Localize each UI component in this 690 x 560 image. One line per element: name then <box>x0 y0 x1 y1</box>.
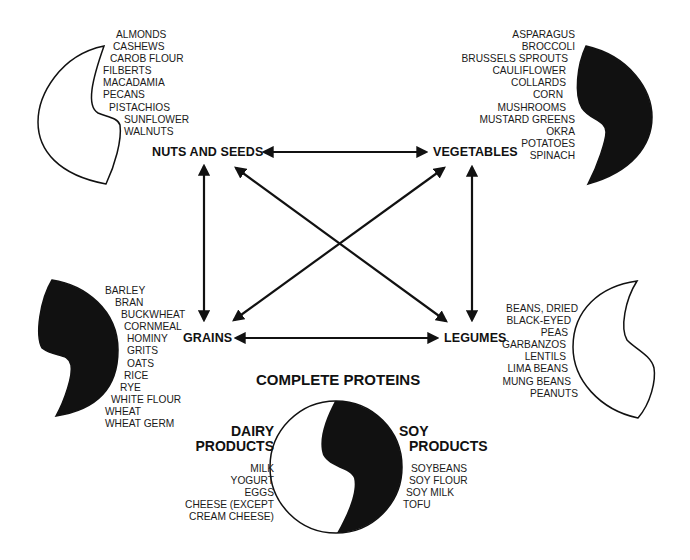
list-item: SPINACH <box>460 150 575 162</box>
soy-products-label: SOY PRODUCTS <box>399 424 488 454</box>
soy-label-line1: SOY <box>399 424 488 439</box>
list-item: MUNG BEANS <box>480 376 578 388</box>
list-item: BUCKWHEAT <box>105 309 185 321</box>
list-item: OKRA <box>460 126 575 138</box>
list-item: BARLEY <box>105 285 185 297</box>
soy-label-line2: PRODUCTS <box>399 439 488 454</box>
list-item: LENTILS <box>480 351 578 363</box>
soy-list: SOYBEANS SOY FLOUR SOY MILK TOFU <box>403 463 468 511</box>
dairy-label-line1: DAIRY <box>190 424 274 439</box>
list-item: WHEAT GERM <box>105 418 185 430</box>
list-item: RICE <box>105 370 185 382</box>
list-item: MUSHROOMS <box>460 102 575 114</box>
list-item: LIMA BEANS <box>480 363 578 375</box>
list-item: YOGURT <box>180 475 274 487</box>
list-item: CAROB FLOUR <box>103 53 189 65</box>
list-item: BEANS, DRIED <box>480 303 578 315</box>
list-item: SOY MILK <box>403 487 468 499</box>
list-item: MILK <box>180 463 274 475</box>
vegetables-list: ASPARAGUS BROCCOLI BRUSSELS SPROUTS CAUL… <box>460 29 575 162</box>
vegetables-shape-icon <box>577 46 652 184</box>
list-item: BROCCOLI <box>460 41 575 53</box>
list-item: BLACK-EYED <box>480 315 578 327</box>
list-item: GRITS <box>105 345 185 357</box>
list-item: RYE <box>105 382 185 394</box>
list-item: WHEAT <box>105 406 185 418</box>
list-item: POTATOES <box>460 138 575 150</box>
list-item: SOY FLOUR <box>403 475 468 487</box>
complete-proteins-title: COMPLETE PROTEINS <box>256 371 420 388</box>
list-item: MACADAMIA <box>103 77 189 89</box>
list-item: WALNUTS <box>103 126 189 138</box>
list-item: CREAM CHEESE) <box>180 511 274 523</box>
nuts-seeds-label: NUTS AND SEEDS <box>152 145 263 159</box>
list-item: MUSTARD GREENS <box>460 114 575 126</box>
list-item: CORN <box>460 89 575 101</box>
list-item: ASPARAGUS <box>460 29 575 41</box>
list-item: CAULIFLOWER <box>460 65 575 77</box>
list-item: CORNMEAL <box>105 321 185 333</box>
dairy-list: MILK YOGURT EGGS CHEESE (EXCEPT CREAM CH… <box>180 463 274 523</box>
grains-list: BARLEY BRAN BUCKWHEAT CORNMEAL HOMINY GR… <box>105 285 185 430</box>
list-item: ALMONDS <box>103 29 189 41</box>
legumes-list: BEANS, DRIED BLACK-EYED PEAS GARBANZOS L… <box>480 303 578 400</box>
list-item: BRAN <box>105 297 185 309</box>
list-item: COLLARDS <box>460 77 575 89</box>
nuts-seeds-list: ALMONDS CASHEWS CAROB FLOUR FILBERTS MAC… <box>103 29 189 138</box>
list-item: WHITE FLOUR <box>105 394 185 406</box>
list-item: OATS <box>105 358 185 370</box>
arrow-nuts-legumes <box>236 168 446 321</box>
list-item: PISTACHIOS <box>103 102 189 114</box>
list-item: SOYBEANS <box>403 463 468 475</box>
dairy-label-line2: PRODUCTS <box>190 439 274 454</box>
list-item: EGGS <box>180 487 274 499</box>
list-item: HOMINY <box>105 333 185 345</box>
list-item: PEAS <box>480 327 578 339</box>
list-item: GARBANZOS <box>480 339 578 351</box>
list-item: CHEESE (EXCEPT <box>180 499 274 511</box>
legumes-shape-icon <box>573 281 654 418</box>
list-item: BRUSSELS SPROUTS <box>460 53 575 65</box>
dairy-products-label: DAIRY PRODUCTS <box>190 424 274 454</box>
list-item: CASHEWS <box>103 41 189 53</box>
list-item: SUNFLOWER <box>103 114 189 126</box>
list-item: FILBERTS <box>103 65 189 77</box>
grains-label: GRAINS <box>183 331 232 345</box>
list-item: PECANS <box>103 89 189 101</box>
list-item: PEANUTS <box>480 388 578 400</box>
connection-arrows <box>204 152 472 338</box>
list-item: TOFU <box>403 499 468 511</box>
